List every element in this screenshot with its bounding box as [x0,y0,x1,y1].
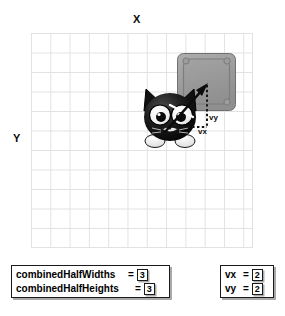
collision-diagram-canvas: X Y [0,0,285,316]
combined-half-widths-label: combinedHalfWidths [16,270,124,280]
readout-row: combinedHalfWidths = 3 [16,268,165,281]
readout-row: combinedHalfHeights = 3 [16,282,165,295]
combined-half-widths-equals: = [128,270,134,280]
velocity-vector-overlay [139,70,249,145]
vy-equals: = [243,284,249,294]
vy-value[interactable]: 2 [252,283,263,295]
combined-half-widths-value[interactable]: 3 [137,269,148,281]
combined-half-heights-equals: = [135,284,141,294]
vx-value[interactable]: 2 [252,269,263,281]
vx-label: vx [225,270,239,280]
readout-row: vy = 2 [225,282,269,295]
vx-component-label: vx [198,128,207,136]
vy-component-label: vy [209,114,218,122]
velocity-panel: vx = 2 vy = 2 [220,265,274,298]
readout-row: vx = 2 [225,268,269,281]
x-axis-label: X [133,14,140,25]
target-square-corner-bolt-tr [224,58,230,64]
target-square-corner-bolt-tl [183,58,189,64]
y-axis-label: Y [13,133,20,144]
vx-equals: = [243,270,249,280]
vy-label: vy [225,284,239,294]
combined-half-heights-label: combinedHalfHeights [16,284,131,294]
combined-half-extents-panel: combinedHalfWidths = 3 combinedHalfHeigh… [11,265,170,298]
combined-half-heights-value[interactable]: 3 [144,283,155,295]
velocity-arrow-shaft [165,89,203,132]
